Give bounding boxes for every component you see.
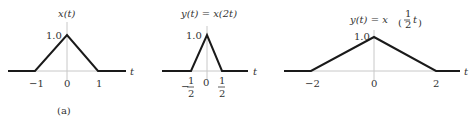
paren-close: ) (418, 17, 422, 28)
tick-label: 0 (64, 78, 70, 89)
panel-title-prefix: y(t) = x (349, 14, 388, 25)
panel-title: x(t) (58, 8, 76, 19)
tick-label: −2 (305, 78, 320, 89)
axis-label: t (130, 66, 135, 77)
figure-caption: (a) (57, 105, 71, 116)
tick-frac-den: 2 (219, 88, 225, 99)
tick-frac-den: 2 (188, 88, 194, 99)
paren-open: ( (398, 17, 402, 28)
axis-label: t (253, 66, 258, 77)
panel-x-t: x(t) 1.0 t −1 0 1 (a) (8, 8, 135, 116)
panel-x-half-t: y(t) = x ( 1 2 t ) 1.0 t −2 0 2 (284, 8, 469, 89)
axis-label: t (464, 66, 469, 77)
triangle-signal (284, 37, 460, 71)
tick-label: −1 (29, 78, 44, 89)
triangle-signal (162, 35, 248, 71)
panel-title: y(t) = x(2t) (180, 8, 237, 19)
peak-label: 1.0 (186, 30, 202, 41)
tick-label: 2 (433, 78, 439, 89)
tick-label: 0 (371, 78, 377, 89)
panel-x-2t: y(t) = x(2t) 1.0 t − 1 2 0 1 2 (162, 8, 258, 99)
title-frac-num: 1 (405, 8, 411, 19)
title-frac-den: 2 (405, 19, 411, 30)
tick-label: 0 (203, 77, 209, 88)
signal-scaling-figure: x(t) 1.0 t −1 0 1 (a) y(t) = x(2t) 1.0 t… (0, 0, 474, 124)
peak-label: 1.0 (46, 30, 62, 41)
tick-frac-num: 1 (188, 75, 194, 86)
tick-frac-num: 1 (219, 75, 225, 86)
peak-label: 1.0 (354, 31, 370, 42)
tick-label: 1 (96, 78, 102, 89)
